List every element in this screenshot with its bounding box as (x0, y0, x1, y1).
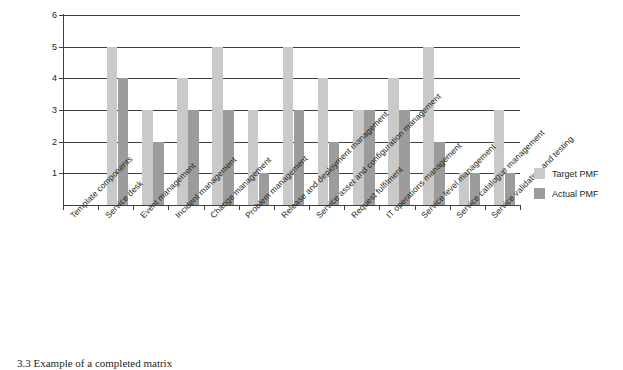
bar-actual-1 (118, 78, 129, 205)
legend-label-0: Target PMF (552, 169, 599, 179)
bar-target-5 (248, 110, 259, 205)
legend-item-0: Target PMF (534, 168, 599, 179)
x-tick-mark-9 (379, 205, 380, 210)
x-tick-mark-12 (485, 205, 486, 210)
gridline-6 (63, 15, 520, 16)
x-tick-mark-5 (239, 205, 240, 210)
x-tick-mark-11 (450, 205, 451, 210)
x-tick-mark-0 (63, 205, 64, 210)
legend-swatch-1 (534, 188, 545, 199)
bar-target-12 (494, 110, 505, 205)
x-tick-mark-end (520, 205, 521, 210)
x-tick-mark-2 (133, 205, 134, 210)
chart-figure: 123456 Template componentsService deskEv… (0, 0, 623, 370)
x-tick-mark-1 (98, 205, 99, 210)
x-tick-mark-7 (309, 205, 310, 210)
y-tick-label-6: 6 (47, 10, 57, 20)
x-tick-mark-8 (344, 205, 345, 210)
x-tick-mark-10 (415, 205, 416, 210)
y-tick-label-5: 5 (47, 42, 57, 52)
y-tick-label-4: 4 (47, 73, 57, 83)
x-tick-mark-4 (204, 205, 205, 210)
figure-caption: 3.3 Example of a completed matrix (17, 357, 172, 369)
bar-target-2 (142, 110, 153, 205)
y-tick-label-1: 1 (47, 168, 57, 178)
y-tick-label-3: 3 (47, 105, 57, 115)
legend-item-1: Actual PMF (534, 188, 599, 199)
bar-target-8 (353, 110, 364, 205)
y-tick-label-2: 2 (47, 137, 57, 147)
x-tick-mark-6 (274, 205, 275, 210)
legend-swatch-0 (534, 168, 545, 179)
legend-label-1: Actual PMF (552, 189, 599, 199)
chart-legend: Target PMFActual PMF (534, 168, 599, 208)
x-tick-mark-3 (168, 205, 169, 210)
